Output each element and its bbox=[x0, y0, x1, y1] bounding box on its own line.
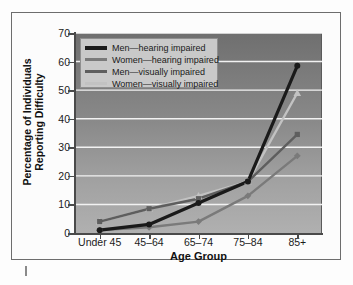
y-tick-label: 20 bbox=[42, 171, 70, 181]
legend-item-label: Men—hearing impaired bbox=[112, 43, 206, 53]
y-tick-mark bbox=[68, 119, 74, 121]
y-tick-mark bbox=[68, 233, 74, 235]
y-tick-label: 0 bbox=[42, 228, 70, 238]
y-tick-label: 60 bbox=[42, 57, 70, 67]
legend-item-label: Women—visually impaired bbox=[112, 79, 218, 89]
y-tick-mark bbox=[68, 90, 74, 92]
x-tick-mark bbox=[199, 234, 201, 239]
legend-item-label: Women—hearing impaired bbox=[112, 55, 219, 65]
y-axis-title-line2: Reporting Difficulty bbox=[33, 73, 45, 170]
legend-swatch bbox=[85, 46, 107, 50]
x-tick-mark bbox=[248, 234, 250, 239]
y-axis-title-line1: Percentage of Individuals bbox=[21, 58, 33, 185]
y-tick-label: 30 bbox=[42, 142, 70, 152]
legend-item-label: Men—visually impaired bbox=[112, 67, 205, 77]
y-axis-title: Percentage of Individuals Reporting Diff… bbox=[21, 27, 45, 217]
y-tick-mark bbox=[68, 33, 74, 35]
legend-swatch bbox=[85, 70, 107, 73]
legend-item: Men—visually impaired bbox=[85, 66, 213, 78]
x-axis-title: Age Group bbox=[75, 250, 322, 262]
y-tick-mark bbox=[68, 62, 74, 64]
data-point-marker bbox=[196, 200, 202, 206]
legend-swatch bbox=[85, 58, 107, 61]
x-tick-mark bbox=[149, 234, 151, 239]
y-tick-mark bbox=[68, 204, 74, 206]
legend-item: Women—hearing impaired bbox=[85, 54, 213, 66]
y-tick-mark bbox=[68, 147, 74, 149]
y-tick-label: 50 bbox=[42, 85, 70, 95]
data-point-marker bbox=[146, 221, 152, 227]
data-point-marker bbox=[97, 219, 102, 224]
data-point-marker bbox=[295, 132, 300, 137]
y-tick-label: 10 bbox=[42, 199, 70, 209]
legend-item: Men—hearing impaired bbox=[85, 42, 213, 54]
x-tick-mark bbox=[297, 234, 299, 239]
data-point-marker bbox=[245, 179, 251, 185]
legend-swatch bbox=[85, 82, 107, 85]
legend-item: Women—visually impaired bbox=[85, 78, 213, 90]
chart-legend: Men—hearing impairedWomen—hearing impair… bbox=[80, 38, 218, 88]
y-tick-label: 70 bbox=[42, 28, 70, 38]
y-tick-label: 40 bbox=[42, 114, 70, 124]
bottom-tick-artifact bbox=[25, 266, 27, 276]
chart-figure: 010203040506070 Under 4545–6465–7475–848… bbox=[0, 0, 353, 285]
x-tick-mark bbox=[100, 234, 102, 239]
data-point-marker bbox=[294, 63, 300, 69]
y-tick-mark bbox=[68, 176, 74, 178]
data-point-marker bbox=[147, 206, 152, 211]
